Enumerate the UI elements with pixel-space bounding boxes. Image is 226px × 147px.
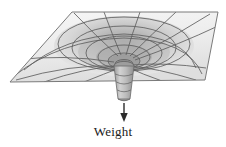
weight-label: Weight: [0, 124, 226, 139]
funnel-stem: [114, 66, 134, 101]
gravity-well-figure: Weight: [0, 0, 226, 147]
weight-arrow: [120, 103, 127, 122]
